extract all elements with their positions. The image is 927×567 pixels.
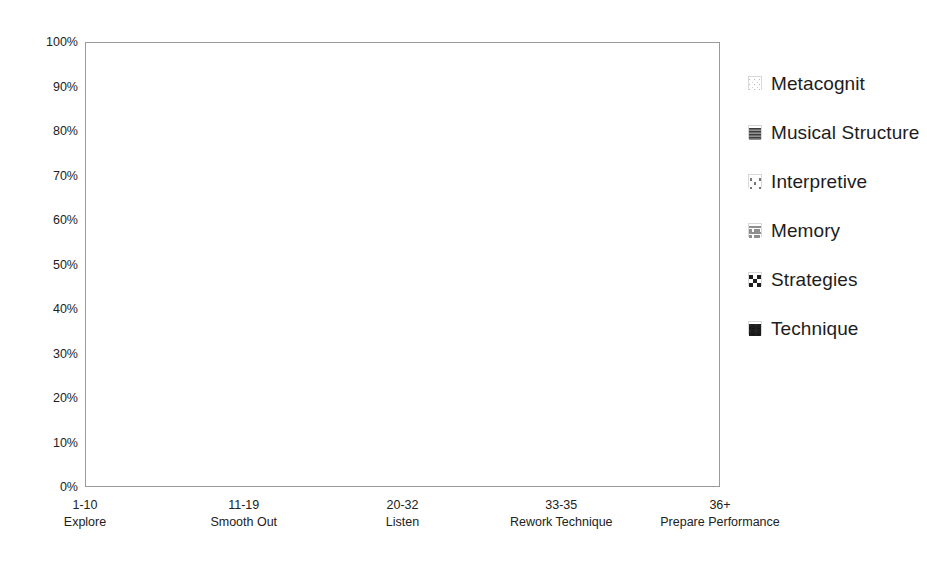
chart-legend: MetacognitMusical StructureInterpretiveM… — [748, 72, 923, 366]
x-tick-phase: Listen — [386, 514, 419, 531]
y-axis-tick-label: 0% — [30, 481, 78, 494]
x-axis-tick-label: 36+Prepare Performance — [660, 497, 780, 531]
y-axis-tick-label: 70% — [30, 170, 78, 183]
legend-label: Strategies — [771, 268, 858, 291]
x-axis-tick-label: 33-35Rework Technique — [510, 497, 613, 531]
y-axis-tick-label: 30% — [30, 348, 78, 361]
legend-label: Metacognit — [771, 72, 865, 95]
legend-swatch-sparse-dots-icon — [748, 174, 762, 188]
legend-swatch-fine-dots-light-icon — [748, 76, 762, 90]
legend-swatch-brick-hatch-icon — [748, 223, 762, 237]
legend-swatch-solid-dark-icon — [748, 321, 762, 335]
x-tick-range: 11-19 — [210, 497, 277, 514]
y-axis-tick-label: 100% — [30, 36, 78, 49]
x-axis-tick-label: 1-10Explore — [64, 497, 106, 531]
x-axis-tick-label: 11-19Smooth Out — [210, 497, 277, 531]
x-tick-range: 33-35 — [510, 497, 613, 514]
y-axis-tick-label: 50% — [30, 259, 78, 272]
x-tick-phase: Prepare Performance — [660, 514, 780, 531]
x-axis-tick-label: 20-32Listen — [386, 497, 419, 531]
x-axis: 1-10Explore11-19Smooth Out20-32Listen33-… — [85, 497, 720, 557]
legend-label: Technique — [771, 317, 859, 340]
legend-item[interactable]: Strategies — [748, 268, 923, 291]
x-tick-range: 36+ — [660, 497, 780, 514]
legend-swatch-horizontal-lines-icon — [748, 125, 762, 139]
y-axis-tick-label: 20% — [30, 392, 78, 405]
x-tick-phase: Explore — [64, 514, 106, 531]
plot-frame — [85, 42, 720, 487]
y-axis-tick-label: 80% — [30, 125, 78, 138]
legend-label: Memory — [771, 219, 840, 242]
y-axis-tick-label: 40% — [30, 303, 78, 316]
legend-label: Musical Structure — [771, 121, 919, 144]
legend-item[interactable]: Metacognit — [748, 72, 923, 95]
y-axis-tick-label: 90% — [30, 81, 78, 94]
x-tick-phase: Rework Technique — [510, 514, 613, 531]
legend-swatch-checkerboard-icon — [748, 272, 762, 286]
x-tick-phase: Smooth Out — [210, 514, 277, 531]
legend-item[interactable]: Memory — [748, 219, 923, 242]
x-tick-range: 1-10 — [64, 497, 106, 514]
y-axis-tick-label: 10% — [30, 437, 78, 450]
stacked-area-chart: 100%90%80%70%60%50%40%30%20%10%0% — [0, 0, 927, 567]
y-axis-tick-label: 60% — [30, 214, 78, 227]
legend-item[interactable]: Interpretive — [748, 170, 923, 193]
x-tick-range: 20-32 — [386, 497, 419, 514]
legend-label: Interpretive — [771, 170, 867, 193]
y-axis: 100%90%80%70%60%50%40%30%20%10%0% — [30, 42, 78, 487]
legend-item[interactable]: Technique — [748, 317, 923, 340]
legend-item[interactable]: Musical Structure — [748, 121, 923, 144]
